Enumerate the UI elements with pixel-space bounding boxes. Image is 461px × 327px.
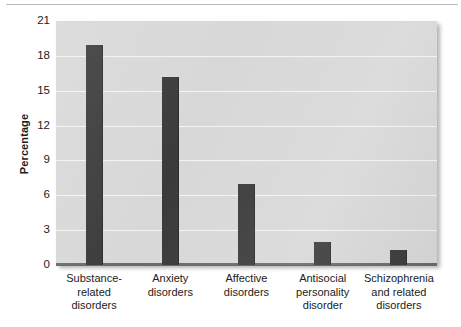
- top-divider-rule: [6, 4, 458, 5]
- x-tick-label-line: disorders: [132, 286, 208, 300]
- x-tick-label-line: Anxiety: [132, 272, 208, 286]
- gridline: [56, 91, 437, 92]
- y-tick-label: 0: [30, 259, 50, 271]
- x-tick-label-line: Antisocial: [285, 272, 361, 286]
- x-tick-label: Substance-relateddisorders: [56, 272, 132, 313]
- x-tick-label: Affectivedisorders: [208, 272, 284, 299]
- y-tick-label: 15: [30, 85, 50, 97]
- y-axis-tick-labels: 036912151821: [28, 0, 50, 327]
- y-tick-label: 12: [30, 120, 50, 132]
- x-tick-label-line: Substance-: [56, 272, 132, 286]
- bar: [314, 242, 331, 265]
- x-tick-label-line: Schizophrenia: [361, 272, 437, 286]
- y-tick-label: 18: [30, 50, 50, 62]
- y-tick-label: 3: [30, 224, 50, 236]
- x-tick-label-line: related: [56, 286, 132, 300]
- y-tick-label: 6: [30, 190, 50, 202]
- x-axis-tick-labels: Substance-relateddisordersAnxietydisorde…: [56, 272, 437, 327]
- x-tick-label: Anxietydisorders: [132, 272, 208, 299]
- y-tick-label: 9: [30, 155, 50, 167]
- x-tick-label-line: disorders: [208, 286, 284, 300]
- bar: [162, 77, 179, 265]
- gridline: [56, 56, 437, 57]
- bar: [238, 184, 255, 265]
- x-tick-label: Schizophreniaand relateddisorders: [361, 272, 437, 313]
- gridline: [56, 126, 437, 127]
- bar: [86, 45, 103, 265]
- x-tick-label-line: disorders: [361, 299, 437, 313]
- x-tick-label-line: personality: [285, 286, 361, 300]
- bar-chart-figure: Percentage 036912151821 Substance-relate…: [0, 0, 461, 327]
- x-tick-label-line: disorders: [56, 299, 132, 313]
- x-tick-label-line: Affective: [208, 272, 284, 286]
- y-tick-label: 21: [30, 15, 50, 27]
- x-tick-label: Antisocialpersonalitydisorder: [285, 272, 361, 313]
- bar: [390, 250, 407, 265]
- x-tick-label-line: disorder: [285, 299, 361, 313]
- gridline: [56, 160, 437, 161]
- x-tick-label-line: and related: [361, 286, 437, 300]
- plot-area: [56, 21, 437, 265]
